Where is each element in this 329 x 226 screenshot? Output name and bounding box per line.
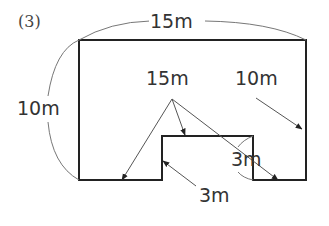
right-height-label: 10m (234, 69, 279, 88)
arrow-to-right-edge (256, 98, 302, 129)
arrow-to-bottom-left (122, 99, 172, 180)
left-height-label: 10m (16, 99, 61, 118)
arrow-to-notch-left (163, 161, 196, 186)
shape-outline (79, 40, 306, 180)
top-width-label: 15m (149, 12, 194, 31)
center-sum-label: 15m (145, 69, 190, 88)
notch-height-label: 3m (230, 150, 263, 169)
notch-width-label: 3m (198, 186, 231, 205)
